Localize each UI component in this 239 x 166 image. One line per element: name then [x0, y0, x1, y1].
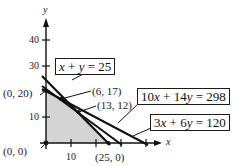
eq2-coef-y: 14 — [174, 89, 187, 104]
eq2-rhs: = 298 — [192, 89, 225, 104]
x-tick-label-10: 10 — [66, 152, 76, 162]
point-label-0-0: (0, 0) — [3, 146, 27, 157]
y-axis-arrow-icon — [43, 18, 49, 27]
chart-canvas — [0, 0, 239, 166]
y-tick-label-40: 40 — [29, 35, 39, 45]
vertex-0-20 — [44, 89, 48, 93]
point-label-6-17: (6, 17) — [92, 86, 121, 97]
y-tick-label-10: 10 — [29, 112, 39, 122]
eq3-rhs: = 120 — [192, 115, 225, 130]
point-label-0-20: (0, 20) — [3, 88, 32, 99]
equation-box-10x-14y: 10x + 14y = 298 — [137, 88, 230, 105]
point-label-25-0: (25, 0) — [95, 152, 124, 163]
equation-box-3x-6y: 3x + 6y = 120 — [150, 114, 230, 131]
vertex-25-0 — [107, 141, 111, 145]
eq1-rhs: = 25 — [84, 59, 111, 74]
vertex-0-0 — [44, 141, 49, 146]
x-axis-arrow-icon — [154, 140, 162, 146]
y-axis-label: y — [43, 5, 47, 15]
point-label-13-12: (13, 12) — [97, 100, 132, 111]
eq1-op: + — [65, 59, 79, 74]
eq3-op: + — [166, 115, 180, 130]
y-tick-label-30: 30 — [29, 61, 39, 71]
x-axis-label: x — [166, 137, 170, 147]
eq2-op: + — [160, 89, 174, 104]
eq2-coef-x: 10 — [141, 89, 154, 104]
equation-box-x-plus-y: x + y = 25 — [55, 58, 115, 75]
